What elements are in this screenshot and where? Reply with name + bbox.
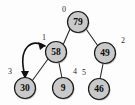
tree-node[interactable]: 9 — [53, 78, 75, 100]
tree-node[interactable]: 46 — [89, 79, 111, 101]
node-index-label: 2 — [121, 36, 125, 45]
node-value: 79 — [73, 17, 83, 27]
node-index-label: 4 — [73, 67, 77, 76]
node-value: 46 — [94, 84, 104, 94]
tree-node[interactable]: 79 — [68, 12, 90, 34]
tree-edge — [86, 29, 98, 46]
tree-node[interactable]: 30 — [15, 78, 37, 100]
node-value: 30 — [20, 83, 30, 93]
tree-edge — [32, 59, 48, 81]
tree-nodes: 79058149230394465 — [8, 5, 125, 101]
swap-arrow-annotation — [21, 42, 45, 79]
tree-edge — [59, 63, 62, 78]
tree-canvas: 79058149230394465 — [0, 0, 135, 105]
tree-node[interactable]: 58 — [46, 42, 68, 64]
node-index-label: 5 — [82, 68, 86, 77]
tree-edge — [63, 29, 70, 45]
node-value: 58 — [51, 47, 61, 57]
tree-node[interactable]: 49 — [95, 43, 117, 65]
node-value: 9 — [61, 83, 66, 93]
binary-tree-diagram: 79058149230394465 — [0, 0, 135, 105]
tree-edge — [100, 64, 103, 79]
node-index-label: 1 — [42, 33, 46, 42]
swap-arrowhead-to-parent — [38, 42, 45, 50]
node-value: 49 — [100, 48, 110, 58]
node-index-label: 3 — [8, 67, 12, 76]
node-index-label: 0 — [62, 5, 66, 14]
